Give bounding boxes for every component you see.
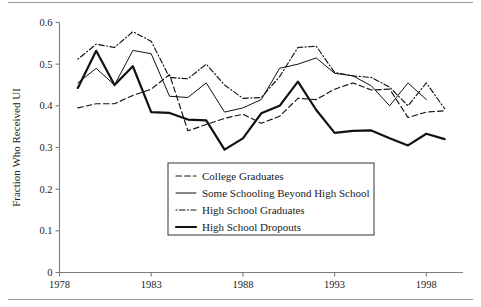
x-tick-label: 1978 [49,279,70,290]
top-rule [8,2,473,3]
y-tick-label: 0.2 [39,184,52,195]
x-tick-label: 1983 [141,279,162,290]
y-tick-label: 0.3 [39,142,52,153]
y-tick-label: 0 [47,267,52,278]
y-tick-label: 0.6 [39,17,52,28]
legend-label-2: High School Graduates [202,204,305,216]
legend-label-1: Some Schooling Beyond High School [202,187,369,199]
series-line-1 [78,50,426,112]
y-axis-title-text: Fraction Who Received UI [10,88,22,207]
y-tick-label: 0.1 [39,225,52,236]
bottom-rule [8,299,473,300]
x-axis: 19781983198819931998 [49,273,463,291]
chart-legend[interactable]: College GraduatesSome Schooling Beyond H… [168,163,374,235]
y-tick-label: 0.4 [39,100,53,111]
series-line-2 [78,32,445,109]
y-tick-label: 0.5 [39,59,52,70]
x-tick-label: 1988 [232,279,253,290]
figure-container: 00.10.20.30.40.50.6 19781983198819931998… [0,0,481,307]
legend-label-0: College Graduates [202,170,284,182]
series-lines [78,32,445,150]
y-axis-title: Fraction Who Received UI [10,88,22,207]
series-line-0 [78,75,445,131]
legend-item-1[interactable]: Some Schooling Beyond High School [176,187,369,199]
y-axis: 00.10.20.30.40.50.6 [39,17,59,278]
legend-label-3: High School Dropouts [202,221,301,233]
x-tick-label: 1993 [324,279,345,290]
x-tick-label: 1998 [416,279,437,290]
series-line-3 [78,51,445,150]
line-chart: 00.10.20.30.40.50.6 19781983198819931998… [0,0,481,307]
